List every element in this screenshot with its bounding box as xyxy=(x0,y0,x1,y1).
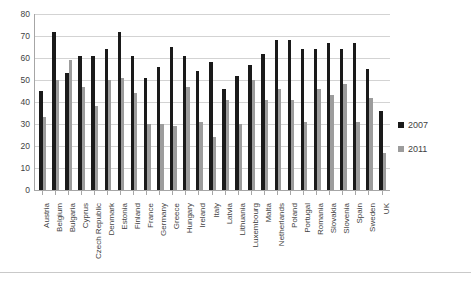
bar-group xyxy=(271,14,284,190)
y-tick-label: 50 xyxy=(0,76,30,85)
x-label-cell: Denmark xyxy=(100,202,113,268)
bar-2011 xyxy=(317,89,320,190)
x-label-cell: Netherlands xyxy=(270,202,283,268)
x-tick xyxy=(336,191,349,195)
legend-item[interactable]: 2011 xyxy=(398,144,464,154)
bar-group xyxy=(88,14,101,190)
bar-2011 xyxy=(383,153,386,190)
x-tick xyxy=(127,191,140,195)
x-label-cell: Poland xyxy=(283,202,296,268)
x-tick xyxy=(349,191,362,195)
bar-group xyxy=(180,14,193,190)
bar-chart: 01020304050607080 AustriaBelgiumBulgaria… xyxy=(0,0,471,283)
x-label-cell: Austria xyxy=(35,202,48,268)
bar-2011 xyxy=(147,124,150,190)
bar-2011 xyxy=(108,80,111,190)
bar-2011 xyxy=(239,124,242,190)
y-axis: 01020304050607080 xyxy=(0,10,30,192)
x-label-cell: Lithuania xyxy=(231,202,244,268)
bar-2011 xyxy=(186,87,189,190)
bar-2011 xyxy=(199,122,202,190)
bar-group xyxy=(75,14,88,190)
x-tick xyxy=(218,191,231,195)
legend-swatch-icon xyxy=(398,122,404,128)
x-label-cell: Ireland xyxy=(192,202,205,268)
x-tick xyxy=(35,191,48,195)
x-label-cell: Slovenia xyxy=(336,202,349,268)
bar-group xyxy=(284,14,297,190)
x-tick xyxy=(61,191,74,195)
bar-group xyxy=(324,14,337,190)
bar-group xyxy=(232,14,245,190)
x-tick xyxy=(283,191,296,195)
x-label-cell: Finland xyxy=(127,202,140,268)
x-label-cell: Cyprus xyxy=(74,202,87,268)
legend-label: 2011 xyxy=(408,144,427,154)
x-tick xyxy=(179,191,192,195)
bar-2011 xyxy=(213,137,216,190)
legend-item[interactable]: 2007 xyxy=(398,120,464,130)
bar-2011 xyxy=(356,122,359,190)
bar-2011 xyxy=(160,124,163,190)
bar-group xyxy=(49,14,62,190)
bar-2011 xyxy=(278,89,281,190)
y-tick-label: 20 xyxy=(0,142,30,151)
x-label-cell: Hungary xyxy=(179,202,192,268)
bar-group xyxy=(219,14,232,190)
bar-2011 xyxy=(56,80,59,190)
x-tick xyxy=(48,191,61,195)
y-tick-label: 40 xyxy=(0,98,30,107)
x-tick xyxy=(257,191,270,195)
x-axis-ticks xyxy=(34,191,389,195)
x-tick xyxy=(100,191,113,195)
chart-legend: 20072011 xyxy=(398,120,464,168)
x-tick xyxy=(297,191,310,195)
legend-swatch-icon xyxy=(398,146,404,152)
bar-2011 xyxy=(134,93,137,190)
x-label-cell: Estonia xyxy=(113,202,126,268)
bar-2011 xyxy=(330,95,333,190)
y-tick-label: 80 xyxy=(0,10,30,19)
x-tick xyxy=(205,191,218,195)
x-label-cell: Luxembourg xyxy=(244,202,257,268)
bar-2011 xyxy=(343,84,346,190)
x-label-cell: Germany xyxy=(153,202,166,268)
bottom-divider xyxy=(0,272,471,273)
bar-group xyxy=(363,14,376,190)
x-label-cell: Portugal xyxy=(297,202,310,268)
x-tick xyxy=(113,191,126,195)
x-label-cell: France xyxy=(140,202,153,268)
x-label-cell: Sweden xyxy=(362,202,375,268)
x-label-cell: Malta xyxy=(257,202,270,268)
bars-layer xyxy=(35,14,390,190)
x-label-cell: Latvia xyxy=(218,202,231,268)
x-label-cell: Slovakia xyxy=(323,202,336,268)
bar-2011 xyxy=(95,106,98,190)
bar-2011 xyxy=(265,100,268,190)
bar-2011 xyxy=(291,100,294,190)
x-tick xyxy=(231,191,244,195)
y-tick-label: 60 xyxy=(0,54,30,63)
bar-2011 xyxy=(173,126,176,190)
chart-title xyxy=(40,0,340,9)
x-tick xyxy=(310,191,323,195)
x-label-cell: Czech Republic xyxy=(87,202,100,268)
bar-2011 xyxy=(252,80,255,190)
x-label-cell: Spain xyxy=(349,202,362,268)
x-axis-label: UK xyxy=(382,203,391,214)
bar-group xyxy=(128,14,141,190)
bar-2011 xyxy=(82,87,85,190)
bar-group xyxy=(206,14,219,190)
bar-group xyxy=(376,14,389,190)
bar-group xyxy=(311,14,324,190)
bar-group xyxy=(114,14,127,190)
bar-group xyxy=(350,14,363,190)
x-label-cell: Bulgaria xyxy=(61,202,74,268)
legend-label: 2007 xyxy=(408,120,428,130)
y-tick-label: 0 xyxy=(0,186,30,195)
x-tick xyxy=(153,191,166,195)
x-label-cell: Romania xyxy=(310,202,323,268)
x-tick xyxy=(244,191,257,195)
bar-group xyxy=(337,14,350,190)
x-tick xyxy=(192,191,205,195)
